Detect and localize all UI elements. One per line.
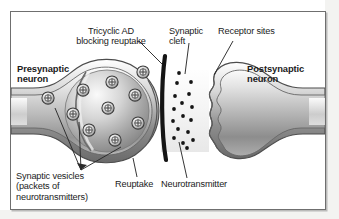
label-synaptic-vesicles: Synaptic vesicles (packets of neurotrans… <box>16 171 116 202</box>
synaptic-vesicle <box>77 84 89 96</box>
label-presynaptic-neuron: Presynaptic neuron <box>17 64 89 85</box>
synaptic-vesicle <box>129 89 141 101</box>
label-reuptake: Reuptake <box>115 179 167 189</box>
neurotransmitter-dot <box>177 71 181 75</box>
label-tricyclic-ad: Tricyclic AD blocking reuptake <box>69 26 153 47</box>
neurotransmitter-dot <box>176 127 180 131</box>
neurotransmitter-dot <box>171 119 175 123</box>
neurotransmitter-dot <box>181 141 185 145</box>
figure-frame: Tricyclic AD blocking reuptake Synaptic … <box>10 11 326 210</box>
neurotransmitter-dot <box>180 101 184 105</box>
neurotransmitter-dot <box>185 146 189 150</box>
page-edge-tint-bottom <box>0 210 339 219</box>
figure-root: Tricyclic AD blocking reuptake Synaptic … <box>0 0 339 219</box>
neurotransmitter-dot <box>186 130 190 134</box>
label-synaptic-cleft: Synaptic cleft <box>169 26 213 47</box>
synaptic-vesicle <box>137 66 149 78</box>
synaptic-vesicle <box>132 117 144 129</box>
leader-line-synaptic-cleft <box>185 43 189 74</box>
synaptic-vesicle <box>42 92 54 104</box>
synaptic-vesicle <box>106 76 118 88</box>
neurotransmitter-dot <box>181 114 185 118</box>
leader-line-reuptake <box>133 158 137 177</box>
synaptic-vesicle <box>109 134 121 146</box>
neurotransmitter-dot <box>187 92 191 96</box>
neurotransmitter-dot <box>189 118 193 122</box>
neurotransmitter-dot <box>175 81 179 85</box>
neurotransmitter-dot <box>191 138 195 142</box>
neurotransmitter-dot <box>190 105 194 109</box>
synaptic-vesicle <box>102 102 114 114</box>
neurotransmitter-dot <box>189 80 193 84</box>
neurotransmitter-dot <box>172 136 176 140</box>
label-receptor-sites: Receptor sites <box>218 26 298 36</box>
leader-arrowhead-vesicles <box>77 163 87 170</box>
neurotransmitter-dot <box>173 94 177 98</box>
neurotransmitter-dot <box>172 107 176 111</box>
label-postsynaptic-neuron: Postsynaptic neuron <box>247 64 323 85</box>
synaptic-vesicle <box>83 124 95 136</box>
synaptic-vesicle <box>67 108 79 120</box>
label-neurotransmitter: Neurotransmitter <box>161 179 257 189</box>
page-edge-tint-right <box>325 0 339 219</box>
